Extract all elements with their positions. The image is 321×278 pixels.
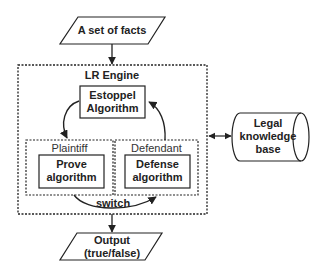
lr-engine-label: LR Engine (62, 69, 162, 82)
defendant-label: Defendant (115, 142, 198, 155)
kb-line2: knowledge (236, 130, 300, 143)
switch-label: switch (90, 197, 136, 210)
defense-line2: algorithm (125, 171, 190, 184)
output-line1: Output (62, 234, 162, 247)
output-line2: (true/false) (62, 247, 162, 260)
prove-line1: Prove (39, 158, 104, 171)
estoppel-label: Estoppel Algorithm (80, 89, 145, 115)
arrow-defendant-to-estoppel (149, 102, 165, 140)
output-label: Output (true/false) (62, 234, 162, 260)
prove-line2: algorithm (39, 171, 104, 184)
plaintiff-label: Plaintiff (26, 142, 113, 155)
arrow-estoppel-to-plaintiff (64, 101, 79, 138)
defense-line1: Defense (125, 158, 190, 171)
estoppel-line2: Algorithm (80, 102, 145, 115)
defense-algorithm-label: Defense algorithm (125, 158, 190, 184)
input-label: A set of facts (62, 24, 162, 37)
estoppel-line1: Estoppel (80, 89, 145, 102)
knowledge-base-label: Legal knowledge base (236, 117, 300, 156)
kb-line3: base (236, 143, 300, 156)
prove-algorithm-label: Prove algorithm (39, 158, 104, 184)
kb-line1: Legal (236, 117, 300, 130)
